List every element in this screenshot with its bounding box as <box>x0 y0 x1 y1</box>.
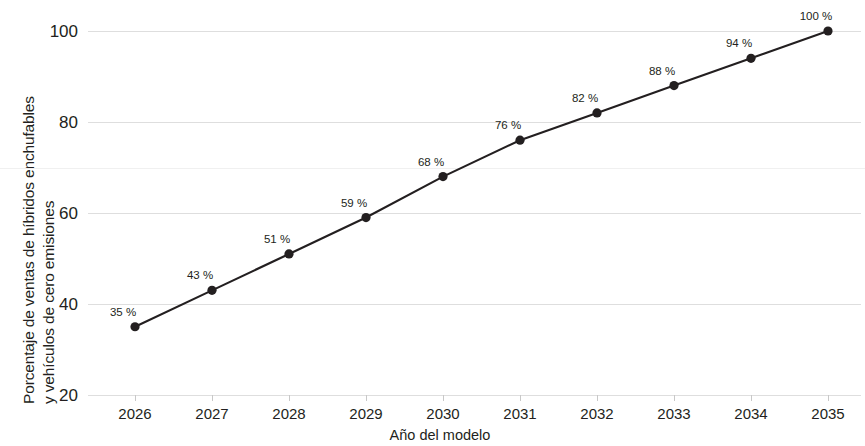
data-point-marker <box>515 136 524 145</box>
x-axis-tick-label: 2034 <box>734 405 767 422</box>
data-point-marker <box>207 286 216 295</box>
x-tickmarks-group <box>135 395 828 401</box>
series-line-path <box>135 31 828 327</box>
y-axis-tick-label: 80 <box>59 113 78 132</box>
series-markers-group <box>130 26 832 331</box>
x-axis-tick-label: 2027 <box>195 405 228 422</box>
x-axis-tick-label: 2028 <box>272 405 305 422</box>
x-axis-tick-label: 2031 <box>503 405 536 422</box>
data-point-label: 88 % <box>649 65 675 77</box>
x-axis-title: Año del modelo <box>90 427 790 443</box>
y-axis-tick-label: 40 <box>59 295 78 314</box>
data-point-label: 59 % <box>341 197 367 209</box>
x-axis-tick-label: 2033 <box>657 405 690 422</box>
data-point-marker <box>823 26 832 35</box>
x-axis-tick-label: 2035 <box>811 405 844 422</box>
data-point-label: 76 % <box>495 119 521 131</box>
data-point-label: 35 % <box>110 306 136 318</box>
gridlines-group <box>88 31 861 395</box>
data-point-label: 94 % <box>726 37 752 49</box>
data-point-marker <box>746 54 755 63</box>
y-axis-tick-labels: 20406080100 <box>50 22 78 405</box>
line-chart-plot: 20406080100 2026202720282029203020312032… <box>0 0 865 446</box>
data-point-label: 100 % <box>800 10 833 22</box>
chart-container: Porcentaje de ventas de híbridos enchufa… <box>0 0 865 446</box>
y-axis-tick-label: 20 <box>59 386 78 405</box>
data-point-marker <box>284 249 293 258</box>
data-point-marker <box>438 172 447 181</box>
data-point-marker <box>669 81 678 90</box>
data-point-label: 43 % <box>187 269 213 281</box>
data-point-marker <box>130 322 139 331</box>
y-axis-tick-label: 100 <box>50 22 78 41</box>
x-axis-tick-label: 2032 <box>580 405 613 422</box>
x-axis-tick-labels: 2026202720282029203020312032203320342035 <box>118 405 844 422</box>
data-point-label: 68 % <box>418 156 444 168</box>
data-point-label: 51 % <box>264 233 290 245</box>
data-point-label: 82 % <box>572 92 598 104</box>
data-point-marker <box>361 213 370 222</box>
x-axis-tick-label: 2026 <box>118 405 151 422</box>
y-axis-tick-label: 60 <box>59 204 78 223</box>
data-point-marker <box>592 108 601 117</box>
x-axis-tick-label: 2030 <box>426 405 459 422</box>
x-axis-tick-label: 2029 <box>349 405 382 422</box>
